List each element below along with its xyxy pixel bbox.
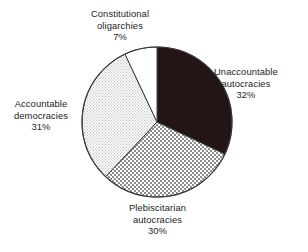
pie-label-line-1: Constitutional (0, 8, 240, 20)
pie-label-line-2: autocracies (214, 78, 278, 90)
pie-label-line-1: Plebiscitarian (95, 202, 220, 214)
pie-label-constitutional-oligarchies: Constitutional oligarchies 7% (0, 8, 240, 43)
pie-label-line-1: Unaccountable (214, 66, 278, 78)
pie-label-line-2: oligarchies (0, 20, 240, 32)
pie-label-line-2: autocracies (95, 214, 220, 226)
pie-label-plebiscitarian-autocracies: Plebiscitarian autocracies 30% (95, 202, 220, 237)
pie-label-percent: 7% (0, 31, 240, 43)
pie-chart-figure: Constitutional oligarchies 7% Unaccounta… (0, 0, 308, 252)
pie-label-percent: 32% (214, 89, 278, 101)
pie-label-line-1: Accountable (2, 98, 80, 110)
pie-label-percent: 31% (2, 121, 80, 133)
pie-label-accountable-democracies: Accountable democracies 31% (2, 98, 80, 133)
pie-label-line-2: democracies (2, 110, 80, 122)
pie-label-unaccountable-autocracies: Unaccountable autocracies 32% (214, 66, 278, 101)
pie-label-percent: 30% (95, 225, 220, 237)
